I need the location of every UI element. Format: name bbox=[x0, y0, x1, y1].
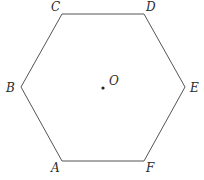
vertex-label-a: A bbox=[50, 161, 60, 175]
vertex-label-d: D bbox=[145, 0, 156, 14]
vertex-label-f: F bbox=[145, 161, 155, 175]
center-point bbox=[101, 86, 104, 89]
vertex-label-e: E bbox=[189, 81, 199, 95]
vertex-label-c: C bbox=[51, 0, 60, 14]
center-label: O bbox=[109, 74, 119, 88]
vertex-label-b: B bbox=[5, 81, 15, 95]
hexagon-diagram: ABCDEF O bbox=[0, 0, 204, 180]
